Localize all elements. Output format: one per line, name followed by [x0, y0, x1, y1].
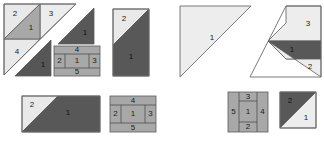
- figure-9-region-3: [268, 6, 321, 41]
- figure-9-triangle-three-region: 3 1 2: [250, 6, 321, 77]
- figure-5-tall-rectangle-two-region: 2 1: [113, 9, 149, 76]
- figure-10-five-region-square-right: 3 5 1 4 2: [228, 92, 268, 132]
- figure-4-body: [54, 46, 100, 76]
- figure-7-body: [110, 96, 156, 132]
- figure-10-body: [228, 92, 268, 132]
- diagram-canvas: 2 1 3 4 1 1 4 2 1 3 5: [0, 0, 324, 143]
- figure-8-region-1: [180, 6, 251, 77]
- figure-8-large-light-triangle: 1: [180, 6, 251, 77]
- diagram-svg: 2 1 3 4 1 1 4 2 1 3 5: [0, 0, 324, 143]
- figure-4-five-region-square-upper: 4 2 1 3 5: [54, 45, 100, 76]
- figure-7-five-region-square-lower: 4 2 1 3 5: [110, 96, 156, 132]
- figure-6-wide-rectangle-two-region: 2 1: [22, 96, 100, 132]
- figure-9-region-1: [268, 41, 321, 59]
- figure-11-square-two-region-dark-light: 2 1: [280, 92, 316, 128]
